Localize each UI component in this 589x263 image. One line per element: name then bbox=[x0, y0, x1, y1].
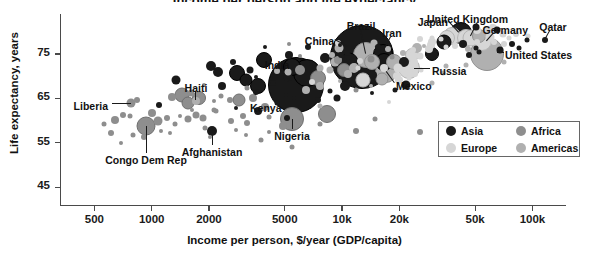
data-point[interactable] bbox=[212, 99, 216, 103]
data-point[interactable] bbox=[525, 38, 530, 43]
data-point[interactable] bbox=[168, 131, 172, 135]
data-point[interactable] bbox=[203, 126, 208, 131]
data-point[interactable] bbox=[192, 97, 200, 105]
data-point[interactable] bbox=[168, 93, 176, 101]
data-point[interactable] bbox=[368, 56, 375, 63]
data-point[interactable] bbox=[329, 52, 335, 58]
data-point[interactable] bbox=[318, 122, 323, 127]
data-point[interactable] bbox=[400, 50, 406, 56]
data-point[interactable] bbox=[245, 86, 250, 91]
data-point[interactable] bbox=[178, 114, 182, 118]
data-point[interactable] bbox=[154, 117, 163, 126]
data-point[interactable] bbox=[287, 42, 291, 46]
data-point[interactable] bbox=[354, 88, 359, 93]
data-point[interactable] bbox=[309, 79, 315, 85]
data-point[interactable] bbox=[302, 86, 310, 94]
data-point[interactable] bbox=[317, 65, 324, 72]
data-point[interactable] bbox=[120, 112, 126, 118]
data-point[interactable] bbox=[102, 122, 107, 127]
data-point[interactable] bbox=[439, 37, 444, 42]
data-point[interactable] bbox=[477, 50, 482, 55]
data-point[interactable] bbox=[318, 104, 323, 109]
data-point[interactable] bbox=[234, 106, 238, 110]
data-point[interactable] bbox=[119, 141, 123, 145]
legend-item-americas[interactable]: Americas bbox=[509, 142, 579, 154]
data-point[interactable] bbox=[369, 71, 377, 79]
data-point[interactable] bbox=[344, 70, 352, 78]
data-point[interactable] bbox=[214, 109, 219, 114]
data-point[interactable] bbox=[206, 61, 216, 71]
data-point[interactable] bbox=[244, 133, 248, 137]
data-point[interactable] bbox=[128, 114, 133, 119]
data-point[interactable] bbox=[193, 112, 200, 119]
data-point[interactable] bbox=[340, 81, 350, 91]
data-point[interactable] bbox=[164, 115, 170, 121]
data-point[interactable] bbox=[369, 84, 373, 88]
data-point[interactable] bbox=[410, 58, 418, 66]
data-point[interactable] bbox=[263, 45, 267, 49]
data-point[interactable] bbox=[466, 52, 472, 58]
data-point[interactable] bbox=[218, 82, 226, 90]
data-point[interactable] bbox=[353, 128, 359, 134]
data-point[interactable] bbox=[356, 66, 361, 71]
data-point[interactable] bbox=[254, 75, 258, 79]
data-point[interactable] bbox=[370, 91, 374, 95]
data-point[interactable] bbox=[249, 94, 257, 102]
data-point[interactable] bbox=[108, 130, 114, 136]
data-point[interactable] bbox=[417, 53, 424, 60]
data-point[interactable] bbox=[131, 133, 136, 138]
data-point[interactable] bbox=[185, 116, 192, 123]
data-point[interactable] bbox=[357, 58, 363, 64]
data-point[interactable] bbox=[240, 113, 246, 119]
legend-item-europe[interactable]: Europe bbox=[439, 142, 509, 154]
data-point[interactable] bbox=[309, 62, 313, 66]
data-point[interactable] bbox=[376, 73, 389, 86]
data-point[interactable] bbox=[316, 82, 324, 90]
data-point[interactable] bbox=[315, 97, 321, 103]
data-point[interactable] bbox=[452, 43, 458, 49]
data-point[interactable] bbox=[234, 128, 238, 132]
data-point[interactable] bbox=[244, 120, 250, 126]
data-point[interactable] bbox=[228, 118, 234, 124]
data-point[interactable] bbox=[387, 100, 391, 104]
legend-item-africa[interactable]: Africa bbox=[509, 125, 579, 137]
data-point[interactable] bbox=[430, 36, 435, 41]
data-point[interactable] bbox=[173, 122, 178, 127]
data-point[interactable] bbox=[509, 41, 515, 47]
data-point[interactable] bbox=[427, 41, 435, 49]
data-point[interactable] bbox=[375, 44, 381, 50]
data-point[interactable] bbox=[298, 54, 302, 58]
data-point[interactable] bbox=[219, 94, 224, 99]
data-point[interactable] bbox=[344, 50, 350, 56]
data-point[interactable] bbox=[270, 80, 276, 86]
data-point[interactable] bbox=[111, 116, 119, 124]
data-point[interactable] bbox=[300, 81, 304, 85]
data-point[interactable] bbox=[172, 76, 181, 85]
data-point[interactable] bbox=[474, 39, 480, 45]
data-point[interactable] bbox=[285, 51, 293, 59]
data-point[interactable] bbox=[259, 138, 264, 143]
data-point[interactable] bbox=[230, 59, 236, 65]
data-point[interactable] bbox=[148, 109, 156, 117]
data-point[interactable] bbox=[247, 67, 254, 74]
data-point[interactable] bbox=[292, 96, 296, 100]
data-point[interactable] bbox=[328, 89, 333, 94]
data-point[interactable] bbox=[200, 115, 207, 122]
data-point[interactable] bbox=[338, 79, 342, 83]
data-point[interactable] bbox=[422, 44, 426, 48]
data-point[interactable] bbox=[373, 117, 378, 122]
data-point[interactable] bbox=[334, 95, 341, 102]
data-point[interactable] bbox=[134, 97, 140, 103]
legend-item-asia[interactable]: Asia bbox=[439, 125, 509, 137]
data-point[interactable] bbox=[327, 67, 334, 74]
data-point[interactable] bbox=[491, 39, 497, 45]
data-point[interactable] bbox=[253, 89, 259, 95]
data-point[interactable] bbox=[233, 94, 246, 107]
data-point[interactable] bbox=[417, 36, 423, 42]
data-point[interactable] bbox=[295, 65, 305, 75]
data-point[interactable] bbox=[159, 129, 163, 133]
data-point[interactable] bbox=[444, 45, 449, 50]
data-point[interactable] bbox=[156, 102, 162, 108]
data-point[interactable] bbox=[412, 71, 418, 77]
data-point[interactable] bbox=[410, 47, 416, 53]
